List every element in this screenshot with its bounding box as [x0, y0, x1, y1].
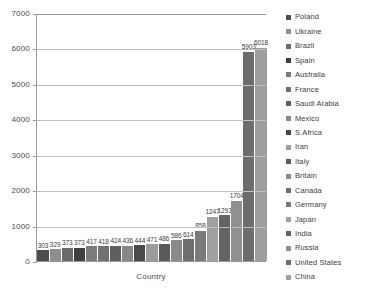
legend-item[interactable]: Canada: [286, 183, 369, 197]
legend-item[interactable]: Ukraine: [286, 24, 369, 38]
bar[interactable]: 1293: [219, 215, 230, 261]
bar[interactable]: 486: [159, 244, 170, 261]
bar-value-label: 471: [147, 237, 158, 244]
gridline: [37, 227, 266, 228]
legend-item-label: Poland: [295, 13, 319, 21]
legend-item-label: Iran: [295, 143, 308, 151]
legend-item[interactable]: China: [286, 270, 369, 284]
legend: PolandUkraineBrazilSpainAustraliaFranceS…: [286, 10, 369, 284]
legend-item[interactable]: Russia: [286, 241, 369, 255]
legend-item[interactable]: S.Africa: [286, 126, 369, 140]
legend-item[interactable]: India: [286, 227, 369, 241]
bar[interactable]: 1704: [231, 201, 242, 261]
bar[interactable]: 471: [146, 244, 157, 261]
bar-value-label: 444: [135, 238, 146, 245]
bar[interactable]: 586: [171, 240, 182, 261]
legend-swatch-icon: [286, 87, 291, 92]
bar[interactable]: 614: [183, 239, 194, 261]
bar-value-label: 486: [159, 236, 170, 243]
gridline: [37, 85, 266, 86]
legend-item-label: China: [295, 273, 315, 281]
y-tick-label: 0: [25, 258, 30, 266]
bar[interactable]: 373: [74, 248, 85, 261]
legend-swatch-icon: [286, 44, 291, 49]
legend-item[interactable]: Brazil: [286, 39, 369, 53]
legend-item[interactable]: United States: [286, 255, 369, 269]
bar-value-label: 303: [38, 243, 49, 250]
y-tick-label: 6000: [11, 45, 30, 53]
bar[interactable]: 373: [62, 248, 73, 261]
bar-chart: 01000200030004000500060007000 3033293733…: [0, 0, 369, 292]
gridline: [37, 156, 266, 157]
bar[interactable]: 303: [37, 250, 48, 261]
bar[interactable]: 424: [110, 246, 121, 261]
legend-item[interactable]: Poland: [286, 10, 369, 24]
legend-swatch-icon: [286, 231, 291, 236]
legend-item-label: Russia: [295, 244, 319, 252]
legend-swatch-icon: [286, 72, 291, 77]
legend-swatch-icon: [286, 202, 291, 207]
legend-swatch-icon: [286, 15, 291, 20]
legend-item-label: Saudi Arabia: [295, 100, 339, 108]
y-tick-label: 4000: [11, 116, 30, 124]
legend-swatch-icon: [286, 159, 291, 164]
legend-item-label: Mexico: [295, 115, 319, 123]
y-tick-label: 1000: [11, 223, 30, 231]
plot-wrapper: 01000200030004000500060007000 3033293733…: [0, 0, 278, 292]
legend-item[interactable]: Saudi Arabia: [286, 97, 369, 111]
legend-item[interactable]: Germany: [286, 198, 369, 212]
bar-value-label: 436: [123, 238, 134, 245]
legend-item-label: Spain: [295, 57, 315, 65]
legend-item[interactable]: Mexico: [286, 111, 369, 125]
bar[interactable]: 436: [122, 246, 133, 261]
bar[interactable]: 329: [50, 249, 61, 261]
bar-value-label: 614: [183, 232, 194, 239]
y-axis: 01000200030004000500060007000: [0, 0, 33, 292]
gridline: [37, 191, 266, 192]
legend-swatch-icon: [286, 260, 291, 265]
y-tick-label: 2000: [11, 187, 30, 195]
plot-area: 3033293733734174184244364444714865866148…: [36, 14, 266, 262]
y-tick-mark: [33, 191, 37, 192]
legend-item-label: Australia: [295, 71, 325, 79]
bar[interactable]: 418: [98, 246, 109, 261]
legend-swatch-icon: [286, 217, 291, 222]
gridline: [37, 120, 266, 121]
bar[interactable]: 1247: [207, 217, 218, 261]
bars-layer: 3033293733734174184244364444714865866148…: [37, 14, 266, 261]
legend-item[interactable]: Spain: [286, 53, 369, 67]
legend-item[interactable]: Iran: [286, 140, 369, 154]
legend-item-label: Italy: [295, 158, 309, 166]
legend-swatch-icon: [286, 174, 291, 179]
legend-item[interactable]: Italy: [286, 154, 369, 168]
bar[interactable]: 858: [195, 231, 206, 261]
legend-swatch-icon: [286, 145, 291, 150]
legend-item[interactable]: Japan: [286, 212, 369, 226]
bar-value-label: 424: [110, 238, 121, 245]
gridline: [37, 14, 266, 15]
bar-value-label: 329: [50, 242, 61, 249]
legend-item-label: India: [295, 230, 312, 238]
legend-item-label: Canada: [295, 187, 322, 195]
legend-item-label: Britain: [295, 172, 317, 180]
y-tick-label: 5000: [11, 81, 30, 89]
legend-item-label: S.Africa: [295, 129, 322, 137]
bar-value-label: 417: [86, 239, 97, 246]
bar[interactable]: 6018: [255, 48, 266, 261]
legend-item[interactable]: Australia: [286, 68, 369, 82]
x-axis-title: Country: [36, 272, 266, 281]
y-tick-mark: [33, 14, 37, 15]
y-tick-mark: [33, 85, 37, 86]
y-tick-label: 3000: [11, 152, 30, 160]
legend-item[interactable]: Britain: [286, 169, 369, 183]
legend-item-label: Japan: [295, 216, 316, 224]
legend-item-label: United States: [295, 259, 341, 267]
bar[interactable]: 444: [134, 245, 145, 261]
legend-swatch-icon: [286, 58, 291, 63]
bar-value-label: 418: [98, 239, 109, 246]
y-tick-mark: [33, 49, 37, 50]
bar-value-label: 1293: [218, 208, 232, 215]
legend-swatch-icon: [286, 188, 291, 193]
legend-item[interactable]: France: [286, 82, 369, 96]
bar[interactable]: 417: [86, 246, 97, 261]
